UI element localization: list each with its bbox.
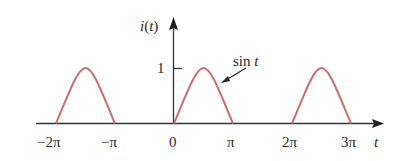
pulse-1 (56, 68, 115, 124)
x-axis-label: t (374, 134, 379, 150)
y-tick-label: 1 (157, 60, 165, 76)
y-axis-label-i: i(t) (140, 18, 158, 35)
x-tick-label-negpi: −π (101, 134, 117, 150)
annotation-pointer (226, 68, 246, 80)
waveform-diagram: i(t) 1 sin t −2π −π 0 π 2π 3π t (0, 0, 414, 161)
annotation-arrow-icon (221, 76, 230, 83)
pulse-3 (292, 68, 351, 124)
pulse-2 (174, 68, 233, 124)
x-tick-label-neg2pi: −2π (37, 134, 61, 150)
x-tick-label-3pi: 3π (341, 134, 357, 150)
x-tick-label-pi: π (227, 134, 235, 150)
x-tick-label-2pi: 2π (282, 134, 298, 150)
x-tick-label-0: 0 (169, 134, 177, 150)
annotation-label: sin t (233, 53, 259, 69)
